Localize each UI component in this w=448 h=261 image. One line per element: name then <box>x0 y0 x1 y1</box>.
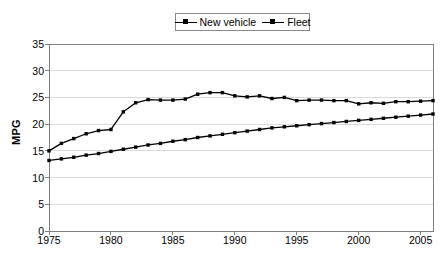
x-tick-label: 1995 <box>285 234 308 246</box>
x-tick-label: 1980 <box>99 234 122 246</box>
chart-container: New vehicle Fleet MPG 05101520253035 197… <box>0 0 448 261</box>
x-tick-label: 1990 <box>223 234 246 246</box>
x-tick-label: 2005 <box>409 234 432 246</box>
x-tick-label: 1985 <box>161 234 184 246</box>
x-axis-ticks: 1975198019851990199520002005 <box>0 0 448 261</box>
x-tick-label: 2000 <box>347 234 370 246</box>
x-tick-label: 1975 <box>37 234 60 246</box>
